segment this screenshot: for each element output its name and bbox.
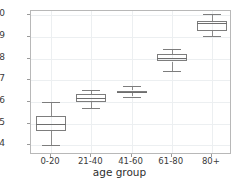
y-axis-tick-label: 0.4 — [0, 139, 5, 148]
y-axis-tick-mark — [27, 101, 30, 102]
y-axis-tick-label: 0.5 — [0, 118, 5, 127]
box-plot-whisker-upper — [212, 14, 213, 21]
y-axis-tick-mark — [27, 123, 30, 124]
x-axis-tick-label: 41-60 — [118, 157, 143, 166]
x-axis-tick-mark — [90, 154, 91, 157]
box-plot-group — [31, 11, 230, 153]
y-axis-tick-mark — [27, 36, 30, 37]
box-plot-cap-upper — [203, 14, 221, 15]
x-axis-tick-mark — [131, 154, 132, 157]
y-axis-tick-label: 0.8 — [0, 53, 5, 62]
box-plot-median — [197, 23, 227, 24]
x-axis-tick-label: 21-40 — [78, 157, 103, 166]
x-axis-tick-label: 61-80 — [158, 157, 183, 166]
y-axis-tick-mark — [27, 144, 30, 145]
y-axis-tick-mark — [27, 79, 30, 80]
plot-area — [30, 10, 231, 154]
y-axis-tick-label: 0.6 — [0, 96, 5, 105]
y-axis-tick-label: 0.7 — [0, 74, 5, 83]
y-axis-tick-mark — [27, 14, 30, 15]
x-axis-tick-label: 80+ — [202, 157, 220, 166]
box-plot-cap-lower — [203, 36, 221, 37]
y-axis-tick-mark — [27, 58, 30, 59]
x-axis-tick-mark — [50, 154, 51, 157]
x-axis-tick-mark — [171, 154, 172, 157]
boxplot-figure: 0.40.50.60.70.80.91.00-2021-4041-6061-80… — [0, 0, 239, 181]
y-axis-tick-label: 0.9 — [0, 31, 5, 40]
x-axis-tick-label: 0-20 — [40, 157, 59, 166]
x-axis-label: age group — [0, 167, 239, 178]
x-axis-tick-mark — [211, 154, 212, 157]
y-axis-tick-label: 1.0 — [0, 9, 5, 18]
